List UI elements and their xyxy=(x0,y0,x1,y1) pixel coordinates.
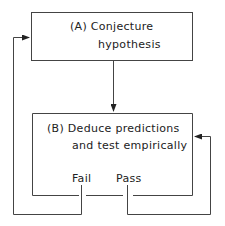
box-a-line1: (A) Conjecture xyxy=(70,20,153,33)
pass-label: Pass xyxy=(116,172,142,185)
box-b-line1: (B) Deduce predictions xyxy=(47,122,180,135)
fail-label: Fail xyxy=(72,172,91,185)
flow-diagram xyxy=(0,0,225,226)
box-a-line2: hypothesis xyxy=(98,38,161,51)
box-b-line2: and test empirically xyxy=(72,139,187,152)
